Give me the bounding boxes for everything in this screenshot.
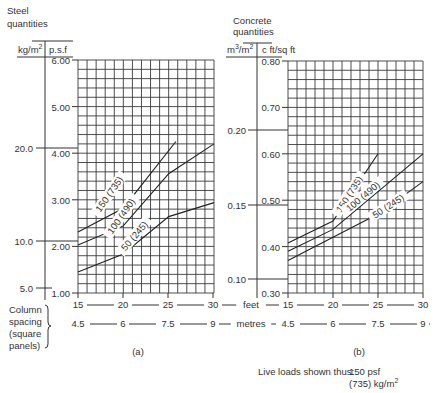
steel-grid: [78, 60, 214, 293]
psf-tick-label: 1.00: [52, 288, 71, 299]
concrete-cft-axis: 0.800.700.600.500.400.30: [262, 56, 289, 299]
cft-tick-label: 0.60: [262, 149, 281, 160]
steel-concrete-quantities-chart: Steel quantities kg/m2 p.s.f 6.005.004.0…: [0, 0, 441, 393]
m3-tick-label: 0.15: [228, 200, 247, 211]
psf-tick-label: 2.00: [52, 241, 71, 252]
x-tick-label: 4.5: [71, 318, 84, 329]
legend-value-psf: 150 psf: [349, 366, 381, 377]
kg-tick-label: 5.0: [20, 283, 33, 294]
column-spacing-label-2: spacing: [9, 316, 42, 327]
psf-tick-label: 3.00: [52, 195, 71, 206]
concrete-unit-m3: m3/m2: [227, 43, 253, 55]
psf-tick-label: 4.00: [52, 148, 71, 159]
legend-intro: Live loads shown thus:: [258, 366, 354, 377]
panel-b-label: (b): [353, 346, 365, 357]
x-tick-label: 7.5: [371, 318, 384, 329]
x-tick-label: 30: [418, 299, 429, 310]
cft-tick-label: 0.40: [262, 242, 281, 253]
x-tick-label: 15: [283, 299, 294, 310]
x-tick-label: 20: [328, 299, 339, 310]
kg-tick-label: 20.0: [15, 143, 34, 154]
concrete-title-line1: Concrete: [233, 15, 272, 26]
concrete-unit-cft: c ft/sq ft: [262, 44, 296, 55]
steel-unit-psf: p.s.f: [49, 44, 67, 55]
x-tick-label: 9: [420, 318, 425, 329]
m3-tick-label: 0.20: [228, 125, 247, 136]
column-spacing-label-3: (square: [9, 328, 41, 339]
brace-icon: [45, 305, 51, 348]
psf-tick-label: 6.00: [52, 55, 71, 66]
column-spacing-label-4: panels): [9, 340, 40, 351]
x-tick-label: 15: [73, 299, 84, 310]
x-tick-label: 6: [120, 318, 125, 329]
steel-title-line1: Steel: [7, 5, 29, 16]
x-unit-label: metres: [236, 318, 265, 329]
x-tick-label: 25: [373, 299, 384, 310]
x-tick-label: 30: [208, 299, 219, 310]
column-spacing-axes: 1520253015202530feet4.567.594.567.59metr…: [66, 293, 432, 329]
x-tick-label: 7.5: [161, 318, 174, 329]
column-spacing-label-1: Column: [9, 304, 42, 315]
psf-tick-label: 5.00: [52, 102, 71, 113]
m3-tick-label: 0.10: [228, 274, 247, 285]
steel-series: 150 (735)100 (490)50 (245): [78, 142, 214, 273]
steel-psf-axis: 6.005.004.003.002.001.00: [52, 55, 79, 299]
steel-title-line2: quantities: [7, 18, 48, 29]
series-label: 50 (245): [370, 192, 406, 221]
x-tick-label: 6: [330, 318, 335, 329]
x-tick-label: 4.5: [281, 318, 294, 329]
x-tick-label: 20: [118, 299, 129, 310]
x-tick-label: 9: [210, 318, 215, 329]
x-unit-label: feet: [243, 299, 259, 310]
cft-tick-label: 0.80: [262, 56, 281, 67]
concrete-series: 150 (735)100 (490)50 (245): [288, 154, 423, 261]
concrete-title-line2: quantities: [233, 26, 274, 37]
cft-tick-label: 0.70: [262, 102, 281, 113]
steel-kg-axis: 20.010.05.0: [15, 143, 79, 294]
legend-value-kg: (735) kg/m2: [349, 377, 398, 389]
x-tick-label: 25: [163, 299, 174, 310]
cft-tick-label: 0.30: [262, 288, 281, 299]
kg-tick-label: 10.0: [15, 236, 34, 247]
panel-a-label: (a): [132, 346, 144, 357]
steel-unit-kg: kg/m2: [18, 43, 43, 55]
